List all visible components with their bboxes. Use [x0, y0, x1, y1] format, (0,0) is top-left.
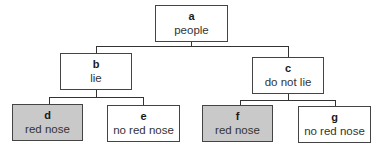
connector-b-down [96, 90, 97, 97]
node-c-id: c [285, 62, 291, 75]
node-d-id: d [44, 109, 51, 122]
connector-c-horizontal [240, 100, 336, 101]
node-a-id: a [188, 10, 194, 23]
node-e-label: no red nose [113, 123, 174, 137]
connector-a-horizontal [96, 46, 289, 47]
connector-to-b [96, 46, 97, 53]
node-f-label: red nose [215, 123, 260, 137]
node-g-id: g [331, 111, 338, 124]
node-d: d red nose [12, 104, 83, 141]
node-e-id: e [140, 110, 146, 123]
node-f: f red nose [202, 105, 273, 142]
connector-to-c [288, 46, 289, 57]
node-e: e no red nose [107, 105, 180, 142]
node-g: g no red nose [298, 106, 371, 143]
node-b: b lie [60, 53, 132, 90]
node-b-id: b [93, 58, 100, 71]
node-d-label: red nose [25, 122, 70, 136]
connector-b-horizontal [49, 97, 144, 98]
connector-to-e [143, 97, 144, 105]
node-a: a people [155, 5, 228, 42]
node-a-label: people [174, 23, 209, 37]
node-f-id: f [236, 110, 240, 123]
connector-to-d [49, 97, 50, 104]
node-c-label: do not lie [265, 75, 312, 89]
node-c: c do not lie [252, 57, 324, 94]
node-g-label: no red nose [304, 124, 365, 138]
node-b-label: lie [90, 71, 102, 85]
